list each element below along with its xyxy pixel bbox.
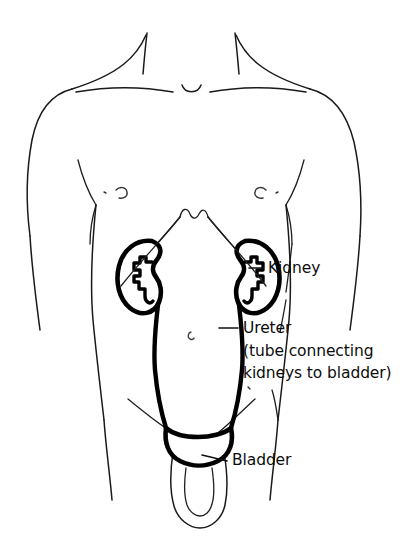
nipple-left-mark [104,192,106,193]
ureter-note-line-1: (tube connecting [243,342,373,360]
bladder-label: Bladder [232,451,292,469]
ureter-note-line-2: kidneys to bladder) [243,364,392,382]
ureter-label: Ureter [243,319,292,337]
kidney-label: Kidney [268,259,320,277]
nipple-right-mark [276,192,278,193]
urinary-system-diagram: Kidney Ureter (tube connecting kidneys t… [0,0,419,541]
